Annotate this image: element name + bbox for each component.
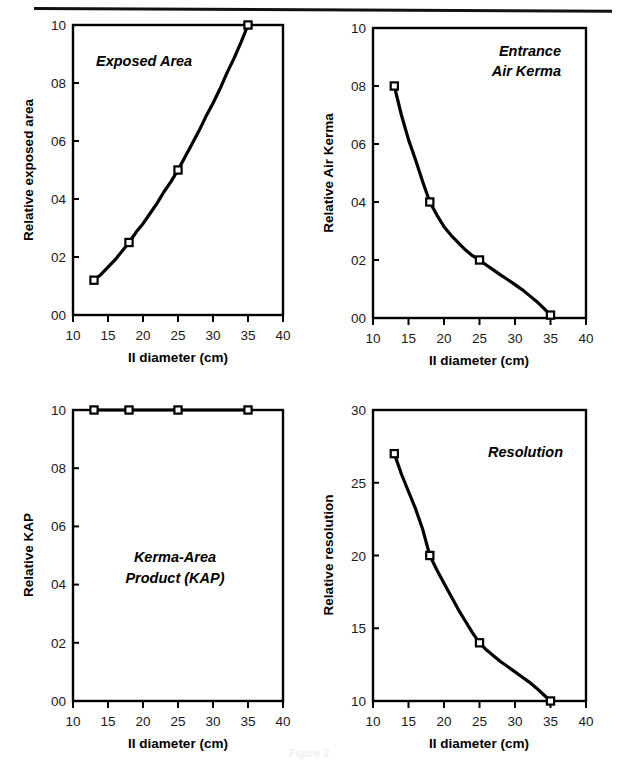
series-line-2 — [394, 86, 550, 315]
y-tick-label: 06 — [51, 519, 66, 534]
y-tick-label: 10 — [351, 21, 366, 36]
y-tick-label: 04 — [51, 577, 67, 592]
x-tick-label: 10 — [65, 328, 80, 343]
y-tick-label: 10 — [51, 18, 66, 33]
series-line-4 — [394, 454, 550, 701]
y-tick-label: 02 — [351, 253, 366, 268]
top-horizontal-rule — [34, 7, 612, 13]
panel-exposed-area: 10 08 06 04 02 00 10 15 20 25 30 35 40 I… — [8, 14, 308, 369]
x-tick-label: 35 — [240, 328, 255, 343]
panel-title-line2: Product (KAP) — [125, 570, 224, 586]
series-markers-2 — [391, 82, 554, 318]
panel-title-line1: Kerma-Area — [134, 549, 216, 565]
y-tick-label: 08 — [51, 76, 66, 91]
data-point-marker — [90, 406, 97, 413]
x-tick-label: 35 — [543, 714, 558, 729]
data-point-marker — [547, 697, 554, 704]
x-tick-label: 30 — [507, 331, 522, 346]
data-point-marker — [426, 198, 433, 205]
series-markers-4 — [391, 450, 554, 705]
x-tick-label: 40 — [578, 331, 593, 346]
y-axis-label: Relative resolution — [321, 495, 336, 616]
y-tick-label: 30 — [351, 403, 366, 418]
x-axis-label: II diameter (cm) — [429, 353, 529, 368]
data-point-marker — [244, 406, 251, 413]
data-point-marker — [476, 639, 483, 646]
x-tick-label: 20 — [436, 331, 451, 346]
plot-kerma-area-product: 10 08 06 04 02 00 10 15 20 25 30 35 40 I… — [8, 395, 308, 755]
x-tick-label: 25 — [170, 328, 185, 343]
x-tick-label: 30 — [507, 714, 522, 729]
panel-resolution: 30 25 20 15 10 10 15 20 25 30 35 40 II d… — [311, 395, 611, 755]
y-tick-label: 04 — [51, 192, 67, 207]
x-tick-label: 20 — [436, 714, 451, 729]
panel-title: Exposed Area — [96, 53, 192, 69]
plot-entrance-air-kerma: 10 08 06 04 02 00 10 15 20 25 30 35 40 I… — [311, 14, 611, 369]
x-tick-label: 40 — [275, 714, 290, 729]
plot-exposed-area: 10 08 06 04 02 00 10 15 20 25 30 35 40 I… — [8, 14, 308, 369]
y-tick-label: 04 — [351, 195, 367, 210]
x-tick-label: 10 — [65, 714, 80, 729]
x-tick-label: 10 — [365, 331, 380, 346]
y-axis-label: Relative exposed area — [21, 99, 36, 241]
data-point-marker — [547, 312, 554, 319]
data-point-marker — [174, 166, 181, 173]
data-point-marker — [90, 277, 97, 284]
y-tick-label: 20 — [351, 549, 366, 564]
y-axis-label: Relative Air Kerma — [321, 113, 336, 233]
y-tick-label: 25 — [351, 476, 366, 491]
x-tick-label: 15 — [401, 714, 416, 729]
panel-title-line1: Entrance — [499, 43, 561, 59]
x-tick-label: 30 — [205, 714, 220, 729]
data-point-marker — [174, 406, 181, 413]
y-tick-label: 02 — [51, 250, 66, 265]
data-point-marker — [125, 239, 132, 246]
y-tick-label: 00 — [51, 308, 66, 323]
panel-kerma-area-product: 10 08 06 04 02 00 10 15 20 25 30 35 40 I… — [8, 395, 308, 755]
data-point-marker — [426, 552, 433, 559]
y-tick-label: 15 — [351, 621, 366, 636]
data-point-marker — [391, 82, 398, 89]
panel-title: Resolution — [488, 444, 563, 460]
y-tick-label: 00 — [351, 311, 366, 326]
panel-entrance-air-kerma: 10 08 06 04 02 00 10 15 20 25 30 35 40 I… — [311, 14, 611, 369]
x-tick-label: 35 — [240, 714, 255, 729]
x-tick-label: 10 — [365, 714, 380, 729]
data-point-marker — [244, 21, 251, 28]
y-tick-label: 02 — [51, 636, 66, 651]
y-tick-label: 10 — [51, 403, 66, 418]
panel-title-line2: Air Kerma — [491, 63, 561, 79]
x-tick-label: 15 — [100, 328, 115, 343]
x-tick-label: 25 — [170, 714, 185, 729]
figure-container: 10 08 06 04 02 00 10 15 20 25 30 35 40 I… — [0, 0, 619, 763]
figure-caption: Figure 2 — [0, 748, 619, 759]
x-axis-label: II diameter (cm) — [128, 350, 228, 365]
x-tick-label: 40 — [578, 714, 593, 729]
x-tick-label: 30 — [205, 328, 220, 343]
data-point-marker — [391, 450, 398, 457]
x-tick-label: 15 — [100, 714, 115, 729]
plot-resolution: 30 25 20 15 10 10 15 20 25 30 35 40 II d… — [311, 395, 611, 755]
x-tick-label: 25 — [472, 714, 487, 729]
y-tick-label: 06 — [51, 134, 66, 149]
y-tick-label: 06 — [351, 137, 366, 152]
x-tick-label: 40 — [275, 328, 290, 343]
y-tick-label: 08 — [51, 461, 66, 476]
data-point-marker — [476, 256, 483, 263]
y-tick-label: 10 — [351, 694, 366, 709]
y-tick-label: 00 — [51, 694, 66, 709]
x-tick-label: 35 — [543, 331, 558, 346]
y-tick-label: 08 — [351, 79, 366, 94]
x-tick-label: 20 — [135, 714, 150, 729]
x-tick-label: 15 — [401, 331, 416, 346]
y-axis-label: Relative KAP — [21, 513, 36, 597]
x-tick-label: 25 — [472, 331, 487, 346]
x-tick-label: 20 — [135, 328, 150, 343]
data-point-marker — [125, 406, 132, 413]
